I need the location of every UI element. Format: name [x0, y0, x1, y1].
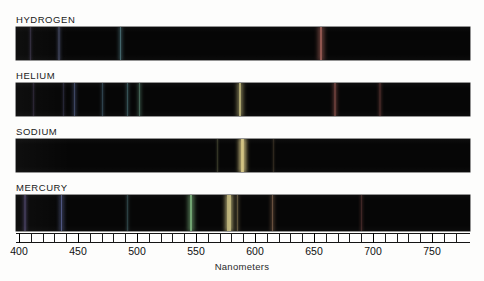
axis-tick-minor [444, 233, 445, 243]
emission-line [242, 139, 244, 172]
spectrum-panel-helium: HELIUM [16, 70, 470, 116]
emission-line [58, 27, 59, 60]
axis-tick-label-group: 400450500550600650700750 [0, 245, 484, 259]
axis-tick-minor [184, 233, 185, 243]
axis-tick-major [19, 233, 20, 243]
axis-tick-minor [102, 233, 103, 243]
spectrum-panel-mercury: MERCURY [16, 182, 470, 231]
emission-line [273, 139, 274, 172]
wavelength-axis-ruler [16, 233, 470, 244]
axis-tick-label: 700 [364, 245, 382, 257]
axis-tick-minor [172, 233, 173, 243]
emission-line [61, 195, 63, 231]
spectrum-label: SODIUM [16, 126, 470, 137]
axis-tick-major [314, 233, 315, 243]
axis-tick-minor [31, 233, 32, 243]
axis-tick-minor [385, 233, 386, 243]
emission-line [33, 83, 34, 116]
axis-tick-minor [361, 233, 362, 243]
axis-tick-minor [90, 233, 91, 243]
axis-tick-minor [231, 233, 232, 243]
emission-line [239, 83, 241, 116]
axis-tick-major [78, 233, 79, 243]
spectrum-label: HYDROGEN [16, 14, 470, 25]
axis-tick-minor [208, 233, 209, 243]
axis-tick-minor [290, 233, 291, 243]
emission-line [229, 195, 231, 231]
axis-tick-minor [326, 233, 327, 243]
axis-tick-minor [338, 233, 339, 243]
axis-tick-minor [456, 233, 457, 243]
emission-line [139, 83, 140, 116]
spectrum-panel-hydrogen: HYDROGEN [16, 14, 470, 60]
spectrum-band [16, 139, 470, 172]
emission-line [127, 195, 128, 231]
axis-tick-minor [243, 233, 244, 243]
emission-line [74, 83, 75, 116]
emission-line [361, 195, 362, 231]
axis-tick-major [137, 233, 138, 243]
axis-tick-label: 550 [187, 245, 205, 257]
axis-tick-label: 750 [423, 245, 441, 257]
emission-line [217, 139, 218, 172]
axis-tick-minor [54, 233, 55, 243]
axis-tick-label: 600 [246, 245, 264, 257]
emission-line [334, 83, 336, 116]
axis-title: Nanometers [0, 261, 484, 272]
spectrum-band [16, 195, 470, 231]
emission-line [120, 27, 121, 60]
axis-tick-minor [125, 233, 126, 243]
emission-line [102, 83, 103, 116]
emission-line [63, 83, 64, 116]
spectrum-band [16, 27, 470, 60]
emission-line [190, 195, 192, 231]
spectrum-label: HELIUM [16, 70, 470, 81]
axis-tick-label: 650 [305, 245, 323, 257]
axis-tick-minor [397, 233, 398, 243]
axis-tick-minor [220, 233, 221, 243]
axis-tick-minor [349, 233, 350, 243]
axis-tick-minor [161, 233, 162, 243]
axis-tick-major [373, 233, 374, 243]
emission-line [30, 27, 31, 60]
axis-tick-major [255, 233, 256, 243]
emission-line [379, 83, 380, 116]
axis-tick-major [432, 233, 433, 243]
emission-line [127, 83, 128, 116]
spectrum-band [16, 83, 470, 116]
axis-tick-label: 500 [128, 245, 146, 257]
axis-tick-minor [302, 233, 303, 243]
axis-tick-minor [149, 233, 150, 243]
axis-tick-minor [113, 233, 114, 243]
axis-tick-label: 450 [69, 245, 87, 257]
axis-tick-major [196, 233, 197, 243]
axis-tick-minor [267, 233, 268, 243]
axis-tick-label: 400 [10, 245, 28, 257]
axis-tick-minor [66, 233, 67, 243]
axis-tick-minor [420, 233, 421, 243]
spectra-figure: HYDROGENHELIUMSODIUMMERCURY 400450500550… [0, 0, 484, 281]
spectrum-panel-sodium: SODIUM [16, 126, 470, 172]
emission-line [272, 195, 273, 231]
emission-line [24, 195, 25, 231]
emission-line [237, 195, 238, 231]
axis-tick-minor [43, 233, 44, 243]
spectrum-label: MERCURY [16, 182, 470, 193]
axis-tick-minor [408, 233, 409, 243]
emission-line [320, 27, 322, 60]
axis-tick-minor [279, 233, 280, 243]
